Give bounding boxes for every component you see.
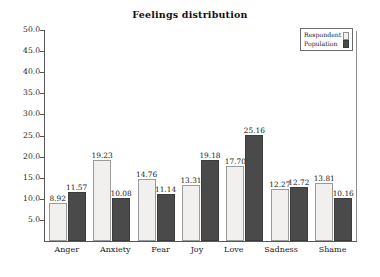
- legend-label-population: Population: [304, 40, 341, 48]
- y-tick-label: 25.0: [23, 131, 40, 140]
- bar-groups: 8.9211.5719.2310.0814.7611.1413.3119.181…: [45, 31, 356, 241]
- chart-title: Feelings distribution: [0, 9, 380, 20]
- x-label-love: Love: [224, 245, 243, 254]
- x-axis-labels: AngerAnxietyFearJoyLoveSadnessShame: [44, 245, 357, 254]
- bar-sadness-population: 12.72: [290, 187, 308, 241]
- bar-group-shame: 13.8110.16: [315, 31, 352, 241]
- bar-love-population: 25.16: [245, 135, 263, 241]
- bar-shame-respondent: 13.81: [315, 183, 333, 241]
- bar-group-love: 17.7025.16: [226, 31, 263, 241]
- bar-value-label: 13.81: [314, 174, 335, 183]
- x-label-anger: Anger: [54, 245, 79, 254]
- bar-value-label: 11.14: [155, 185, 176, 194]
- bar-value-label: 12.27: [269, 180, 290, 189]
- bar-sadness-respondent: 12.27: [271, 189, 289, 241]
- bar-anger-population: 11.57: [68, 192, 86, 241]
- legend-labels: RespondentPopulation: [304, 31, 341, 48]
- bar-fear-respondent: 14.76: [138, 179, 156, 241]
- bar-group-joy: 13.3119.18: [182, 31, 219, 241]
- y-tick-label: 45.0: [23, 46, 40, 55]
- y-tick-label: 20.0: [23, 152, 40, 161]
- x-axis-spine: [44, 241, 357, 242]
- y-tick-label: 10.0: [23, 194, 40, 203]
- bar-group-anger: 8.9211.57: [49, 31, 86, 241]
- y-tick-label: 5.0: [28, 215, 40, 224]
- bar-anxiety-respondent: 19.23: [93, 160, 111, 241]
- right-axis-spine: [356, 31, 357, 242]
- bar-value-label: 10.16: [333, 189, 354, 198]
- bar-love-respondent: 17.70: [226, 166, 244, 241]
- bar-fear-population: 11.14: [157, 194, 175, 241]
- bar-value-label: 11.57: [66, 183, 87, 192]
- y-tick-label: 15.0: [23, 173, 40, 182]
- legend-swatches: [343, 32, 349, 48]
- bar-joy-respondent: 13.31: [182, 185, 200, 241]
- legend-swatch-population: [343, 40, 349, 48]
- bar-value-label: 8.92: [49, 194, 65, 203]
- y-tick-label: 40.0: [23, 67, 40, 76]
- bar-value-label: 14.76: [136, 170, 157, 179]
- bar-group-fear: 14.7611.14: [138, 31, 175, 241]
- bar-value-label: 17.70: [225, 157, 246, 166]
- y-tick-label: 35.0: [23, 88, 40, 97]
- bar-shame-population: 10.16: [334, 198, 352, 241]
- bar-value-label: 12.72: [288, 178, 309, 187]
- x-label-sadness: Sadness: [264, 245, 297, 254]
- bar-joy-population: 19.18: [201, 160, 219, 241]
- x-label-anxiety: Anxiety: [100, 245, 130, 254]
- chart-legend: RespondentPopulation: [300, 28, 353, 51]
- bar-value-label: 13.31: [180, 176, 201, 185]
- legend-swatch-respondent: [343, 32, 349, 40]
- y-tick-label: 50.0: [23, 25, 40, 34]
- x-label-joy: Joy: [191, 245, 204, 254]
- bar-group-sadness: 12.2712.72: [271, 31, 308, 241]
- bar-value-label: 19.18: [199, 151, 220, 160]
- bar-anger-respondent: 8.92: [49, 203, 67, 241]
- feelings-distribution-chart: Feelings distribution 5.010.015.020.025.…: [0, 0, 380, 277]
- plot-area: 5.010.015.020.025.030.035.040.045.050.0 …: [44, 31, 357, 242]
- bar-group-anxiety: 19.2310.08: [93, 31, 130, 241]
- bar-value-label: 25.16: [244, 126, 265, 135]
- bar-value-label: 19.23: [92, 151, 113, 160]
- bar-value-label: 10.08: [111, 189, 132, 198]
- bar-anxiety-population: 10.08: [112, 198, 130, 241]
- y-tick-label: 30.0: [23, 109, 40, 118]
- x-label-shame: Shame: [319, 245, 347, 254]
- x-label-fear: Fear: [151, 245, 169, 254]
- legend-label-respondent: Respondent: [304, 31, 341, 39]
